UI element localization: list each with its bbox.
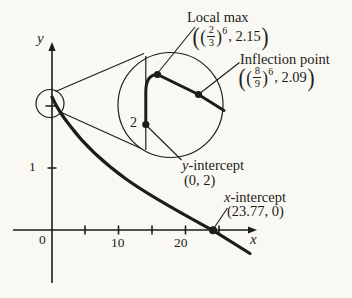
x-axis-label: x [250, 232, 257, 248]
paren: ) [262, 68, 268, 87]
y-intercept-title: y-intercept [182, 158, 244, 173]
exponent: 6 [268, 66, 273, 77]
x-intercept-leader-line [214, 208, 228, 228]
x-intercept-coordinates: (23.77, 0) [227, 204, 284, 219]
y-axis-arrowhead [48, 42, 55, 51]
graph-canvas [0, 0, 352, 298]
magnifier-source-circle [36, 90, 64, 118]
intercept-word: -intercept [188, 157, 244, 173]
y-intercept-coordinates: (0, 2) [184, 173, 215, 188]
paren: ( [239, 65, 246, 90]
inflection-coordinates: ((89)6, 2.09) [238, 65, 315, 90]
y-tick-label-1: 1 [29, 160, 36, 174]
x-intercept-point [209, 226, 217, 234]
paren: ( [201, 27, 207, 46]
y-intercept-point [142, 121, 149, 128]
x-tick-label-20: 20 [174, 236, 188, 250]
fraction-eight-ninths: 89 [253, 65, 261, 90]
local-max-point [154, 71, 161, 78]
origin-tick-label: 0 [39, 233, 46, 247]
inflection-point [195, 91, 202, 98]
fraction-two-thirds: 23 [207, 24, 215, 49]
figure-function-graph: y x 0 10 20 1 2 Local max ((23)6, 2.15) … [0, 0, 352, 298]
y-axis-label: y [37, 31, 44, 47]
paren: ) [307, 65, 314, 90]
local-max-coordinates: ((23)6, 2.15) [192, 24, 269, 49]
exponent: 6 [222, 25, 227, 36]
magnifier-lens-circle [118, 53, 223, 158]
coordinate-value: , 2.09 [274, 69, 307, 86]
magnified-y-tick-label-2: 2 [130, 116, 137, 131]
paren: ) [261, 24, 268, 49]
paren: ) [216, 27, 222, 46]
paren: ( [193, 24, 200, 49]
paren: ( [247, 68, 253, 87]
x-tick-label-10: 10 [111, 236, 125, 250]
coordinate-value: , 2.15 [228, 28, 261, 45]
